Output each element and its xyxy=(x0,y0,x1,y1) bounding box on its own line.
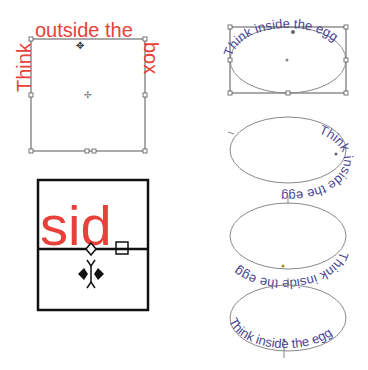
box-text-left: Think xyxy=(13,42,35,92)
box-figure: ✢ ✥ Think outside the box xyxy=(13,19,162,153)
zoom-detail-figure: sid xyxy=(38,180,148,310)
egg-1-text: Think inside the egg xyxy=(221,16,342,58)
egg-figure-1: Think inside the egg xyxy=(221,16,348,95)
egg-figure-3: Think inside the egg xyxy=(230,196,351,292)
zoom-detail-text: sid xyxy=(40,194,112,257)
type-on-path-cursor-icon xyxy=(78,260,104,288)
type-on-path-diagram: ✢ ✥ Think outside the box sid Think xyxy=(0,0,368,370)
center-point-icon: ✢ xyxy=(84,90,92,100)
path-type-cursor-icon: ✥ xyxy=(76,40,84,51)
box-text-right: box xyxy=(140,42,162,74)
egg-2-text: Think inside the egg xyxy=(281,122,356,204)
egg-figure-2: Think inside the egg xyxy=(228,117,356,204)
box-text-top: outside the xyxy=(35,19,133,41)
